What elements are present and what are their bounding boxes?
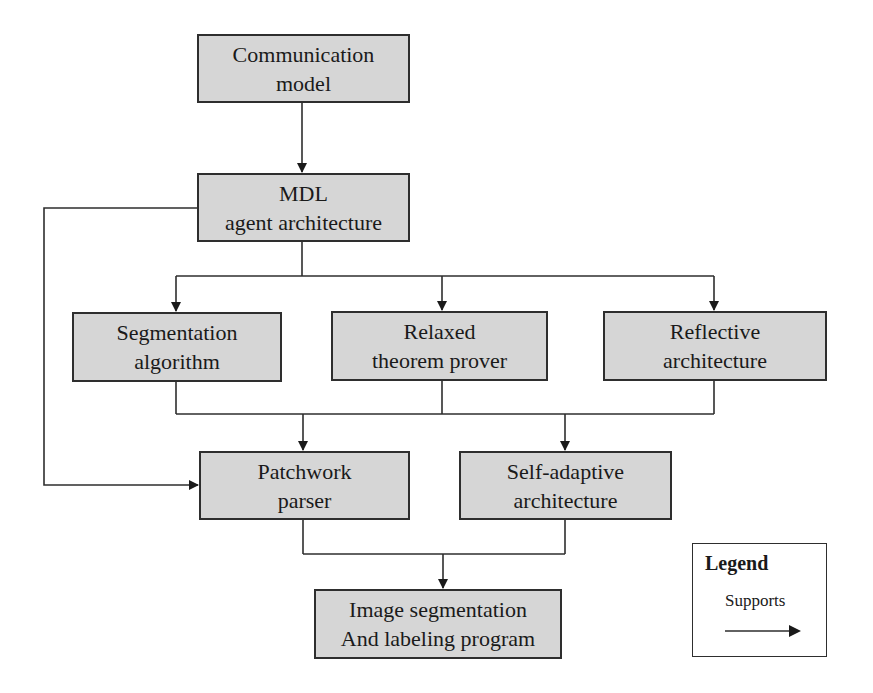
node-label-line2: model [276,69,331,98]
legend-title: Legend [705,552,768,575]
legend-item-label: Supports [725,591,785,611]
diagram-canvas: Communication model MDL agent architectu… [0,0,873,693]
node-relaxed-theorem-prover: Relaxed theorem prover [331,311,548,381]
node-image-segmentation-program: Image segmentation And labeling program [314,589,562,659]
node-label-line1: Reflective [670,317,760,346]
node-patchwork-parser: Patchwork parser [199,451,410,520]
node-self-adaptive-architecture: Self-adaptive architecture [459,451,672,520]
node-label-line2: agent architecture [225,208,382,237]
node-label-line1: Relaxed [403,317,475,346]
node-label-line1: Self-adaptive [507,457,624,486]
legend-box: Legend Supports [692,543,827,657]
node-label-line2: architecture [663,346,767,375]
node-label-line1: Communication [233,40,375,69]
node-label-line2: algorithm [134,347,220,376]
node-communication-model: Communication model [197,34,410,103]
node-label-line2: parser [278,486,332,515]
arrow-right-icon [723,624,803,638]
node-label-line1: MDL [279,179,328,208]
node-label-line2: architecture [514,486,618,515]
node-mdl-agent-architecture: MDL agent architecture [197,173,410,242]
node-label-line1: Patchwork [257,457,351,486]
node-label-line2: And labeling program [341,624,535,653]
node-label-line1: Segmentation [117,318,238,347]
node-label-line2: theorem prover [372,346,507,375]
node-segmentation-algorithm: Segmentation algorithm [72,312,282,382]
node-reflective-architecture: Reflective architecture [603,311,827,381]
node-label-line1: Image segmentation [349,595,527,624]
